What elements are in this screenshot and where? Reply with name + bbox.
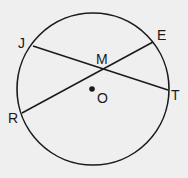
diagram-canvas: J E M O T R	[0, 0, 188, 178]
label-j: J	[18, 35, 25, 51]
label-m: M	[96, 51, 108, 67]
label-t: T	[171, 87, 180, 103]
label-o: O	[97, 90, 108, 106]
chord-re	[22, 42, 153, 113]
center-point-o	[89, 86, 95, 92]
label-r: R	[8, 110, 18, 126]
label-e: E	[157, 27, 166, 43]
